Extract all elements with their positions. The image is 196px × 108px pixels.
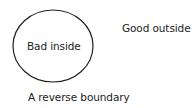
inside-label: Bad inside (27, 40, 81, 52)
diagram-caption: A reverse boundary (28, 91, 130, 103)
outside-label: Good outside (122, 22, 191, 34)
